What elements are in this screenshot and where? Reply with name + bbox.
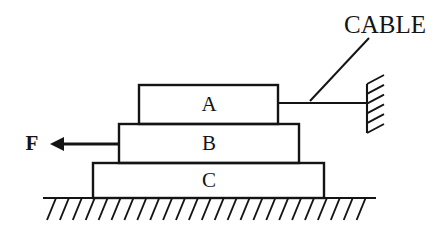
ground-hatch-mark xyxy=(292,198,301,220)
ground-hatch-mark xyxy=(150,198,159,220)
force-arrow-head xyxy=(50,137,64,151)
diagram-canvas: A B C F CABLE xyxy=(0,0,443,238)
ground-hatch-mark xyxy=(73,198,82,220)
ground-hatch-mark xyxy=(137,198,146,220)
block-a-label: A xyxy=(201,92,217,116)
block-b-label: B xyxy=(202,131,216,155)
ground-hatch-mark xyxy=(176,198,185,220)
cable-label: CABLE xyxy=(344,11,426,38)
ground-hatch-mark xyxy=(124,198,133,220)
wall-hatch-mark xyxy=(367,104,384,113)
physics-diagram: A B C F CABLE xyxy=(0,0,443,238)
ground-hatch-mark xyxy=(279,198,288,220)
wall-hatch-mark xyxy=(367,114,384,123)
wall-hatch-mark xyxy=(367,85,384,94)
wall-hatch-marks xyxy=(367,75,384,133)
ground-hatch-mark xyxy=(99,198,108,220)
ground-hatch-mark xyxy=(357,198,366,220)
wall-hatch-mark xyxy=(367,75,384,84)
ground-hatch-mark xyxy=(163,198,172,220)
wall-hatch-mark xyxy=(367,95,384,104)
ground-hatch-mark xyxy=(189,198,198,220)
cable-leader-line xyxy=(310,38,369,101)
ground-hatch-mark xyxy=(318,198,327,220)
ground-hatch-mark xyxy=(331,198,340,220)
ground-hatch-mark xyxy=(112,198,121,220)
ground-hatch-mark xyxy=(202,198,211,220)
force-label: F xyxy=(26,131,39,155)
ground-hatch-marks xyxy=(47,198,366,220)
ground-hatch-mark xyxy=(305,198,314,220)
ground-hatch-mark xyxy=(60,198,69,220)
ground-hatch-mark xyxy=(47,198,56,220)
ground-hatch-mark xyxy=(86,198,95,220)
wall-hatch-mark xyxy=(367,124,384,133)
ground-hatch-mark xyxy=(241,198,250,220)
ground-hatch-mark xyxy=(266,198,275,220)
ground-hatch-mark xyxy=(253,198,262,220)
ground-hatch-mark xyxy=(344,198,353,220)
ground-hatch-mark xyxy=(228,198,237,220)
block-c-label: C xyxy=(202,168,216,192)
ground-hatch-mark xyxy=(215,198,224,220)
